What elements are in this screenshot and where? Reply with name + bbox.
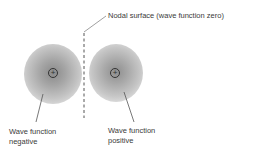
positive-label-line2: positive bbox=[108, 136, 155, 146]
positive-label-line1: Wave function bbox=[108, 126, 155, 136]
wave-function-negative-label: Wave function negative bbox=[9, 127, 56, 147]
nodal-surface-label: Nodal surface (wave function zero) bbox=[108, 11, 224, 21]
negative-label-line1: Wave function bbox=[9, 127, 56, 137]
wave-function-positive-label: Wave function positive bbox=[108, 126, 155, 146]
nodal-leader-line bbox=[84, 16, 106, 32]
negative-label-line2: negative bbox=[9, 137, 56, 147]
negative-leader-line bbox=[36, 94, 43, 122]
positive-leader-line bbox=[124, 92, 134, 122]
